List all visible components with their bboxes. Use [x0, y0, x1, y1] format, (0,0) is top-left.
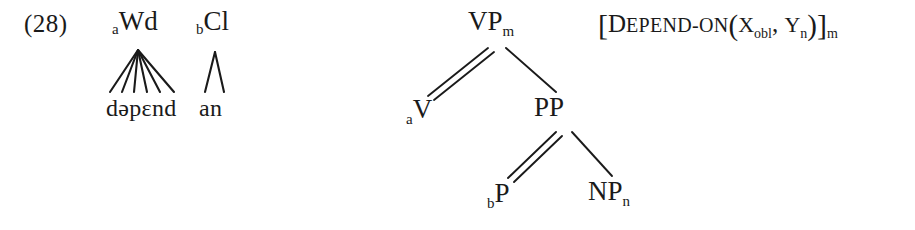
tree-node-vp: VPm — [468, 8, 514, 35]
tree-node-np-label: NP — [588, 176, 623, 206]
tree-node-vp-subscript: m — [503, 23, 515, 39]
tree-edge-pp-np — [572, 132, 612, 176]
tree-edge-vp-v-double — [428, 48, 494, 100]
tree-node-np-subscript: n — [623, 193, 631, 209]
tree-node-v: aV — [406, 96, 432, 123]
formula-arg1-variable: X — [738, 12, 754, 37]
formula-close-bracket: ] — [817, 8, 827, 41]
tree-edge-vp-pp — [506, 48, 556, 92]
figure-canvas: (28) aWd bCl dəpɛnd an — [0, 0, 915, 230]
formula-predicate-name: EPEND-ON — [626, 14, 728, 36]
tree-node-p-label: P — [495, 178, 510, 208]
tree-node-vp-label: VP — [468, 6, 503, 36]
tree-node-p-subscript: b — [487, 195, 495, 211]
tree-node-v-subscript: a — [406, 111, 413, 127]
semantic-formula: [DEPEND-ON(Xobl, Yn)]m — [598, 10, 838, 40]
formula-arg-separator: , — [772, 10, 785, 37]
tree-edge-pp-p-double — [508, 132, 562, 182]
formula-outer-subscript: m — [827, 26, 838, 41]
tree-edge-pp-p-stroke-1 — [508, 132, 556, 178]
formula-predicate-initial: D — [608, 10, 626, 37]
tree-node-pp-label: PP — [534, 92, 564, 122]
tree-edge-vp-v-stroke-2 — [434, 52, 494, 100]
tree-node-p: bP — [487, 180, 510, 207]
formula-open-bracket: [ — [598, 8, 608, 41]
tree-node-v-label: V — [413, 94, 433, 124]
formula-arg2-subscript: n — [800, 26, 807, 41]
formula-open-paren: ( — [728, 9, 738, 41]
formula-arg2-variable: Y — [784, 12, 800, 37]
tree-node-pp: PP — [534, 94, 564, 121]
formula-close-paren: ) — [807, 9, 817, 41]
tree-edge-vp-v-stroke-1 — [428, 48, 488, 96]
tree-node-np: NPn — [588, 178, 630, 205]
formula-arg1-subscript: obl — [754, 26, 772, 41]
tree-edge-pp-p-stroke-2 — [514, 136, 562, 182]
